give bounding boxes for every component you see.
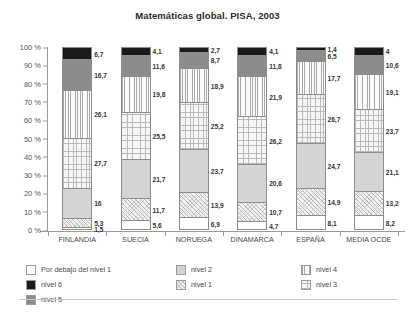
bar-segment[interactable]: 4,1 [237, 47, 267, 55]
bar-value-label: 8,1 [328, 219, 337, 226]
legend-label: nivel 2 [191, 265, 212, 274]
bar-segment[interactable]: 8,2 [354, 215, 384, 230]
bar-value-label: 11,6 [153, 62, 165, 69]
legend-label: nivel 6 [41, 280, 62, 289]
legend-item[interactable]: nivel 1 [176, 280, 301, 290]
bar-segment[interactable]: 1,4 [296, 47, 326, 50]
legend-item[interactable]: nivel 2 [176, 265, 301, 275]
bar-stack[interactable]: 1,55,31627,726,116,76,7 [62, 47, 92, 230]
bar-value-label: 8,7 [211, 57, 220, 64]
y-axis-tick-label: 60 % [2, 116, 48, 125]
bar-segment[interactable]: 18,9 [179, 68, 209, 103]
bar-stack[interactable]: 5,611,721,725,519,811,64,1 [121, 47, 151, 230]
bar-segment[interactable]: 19,8 [121, 76, 151, 112]
chart-title: Matemáticas global. PISA, 2003 [0, 10, 415, 21]
y-axis-tick-label: 20 % [2, 189, 48, 198]
legend-swatch-icon [301, 265, 311, 275]
bar-segment[interactable]: 1,5 [62, 227, 92, 230]
bar-segment[interactable]: 4 [354, 47, 384, 54]
bar-value-label: 19,1 [386, 88, 399, 95]
bar-segment[interactable]: 10,7 [237, 202, 267, 222]
bar-value-label: 25,2 [211, 123, 224, 130]
bar-value-label: 26,7 [328, 115, 341, 122]
bar-stack[interactable]: 8,213,221,123,719,110,64 [354, 47, 384, 230]
bar-segment[interactable]: 13,9 [179, 192, 209, 217]
bar-segment[interactable]: 10,6 [354, 55, 384, 74]
bar-segment[interactable]: 20,6 [237, 164, 267, 202]
legend-item[interactable]: Por debajo del nivel 1 [26, 265, 176, 275]
bar-value-label: 26,1 [94, 111, 107, 118]
x-axis-tick [223, 231, 224, 236]
bar-segment[interactable]: 4,1 [121, 47, 151, 55]
chart-legend: Por debajo del nivel 1nivel 2nivel 4nive… [26, 262, 396, 307]
legend-item[interactable]: nivel 3 [301, 280, 396, 290]
bar-segment[interactable]: 5,6 [121, 220, 151, 230]
bar-segment[interactable]: 14,9 [296, 188, 326, 215]
bar-segment[interactable]: 5,3 [62, 218, 92, 228]
bar-segment[interactable]: 6,7 [62, 47, 92, 59]
x-axis-tick [165, 231, 166, 236]
bar-segment[interactable]: 24,7 [296, 143, 326, 188]
bar-segment[interactable]: 13,2 [354, 191, 384, 215]
bar-segment[interactable]: 26,1 [62, 90, 92, 138]
y-axis-tick-label: 70 % [2, 97, 48, 106]
bar-value-label: 1,4 [328, 45, 337, 52]
bar-segment[interactable]: 8,7 [179, 52, 209, 68]
bar-value-label: 4 [386, 48, 390, 55]
bar-stack[interactable]: 8,114,924,726,717,76,51,4 [296, 47, 326, 230]
bar-segment[interactable]: 27,7 [62, 138, 92, 189]
bar-value-label: 4,7 [269, 222, 278, 229]
bar-segment[interactable]: 4,7 [237, 221, 267, 230]
bar-segment[interactable]: 17,7 [296, 61, 326, 93]
bar-value-label: 6,9 [211, 220, 220, 227]
legend-item[interactable]: nivel 6 [26, 280, 176, 290]
bar-value-label: 27,7 [94, 160, 107, 167]
bar-value-label: 4,1 [269, 48, 278, 55]
y-axis-tick-label: 30 % [2, 171, 48, 180]
bar-segment[interactable]: 16,7 [62, 59, 92, 90]
legend-item[interactable]: nivel 4 [301, 265, 396, 275]
bar-segment[interactable]: 6,9 [179, 217, 209, 230]
legend-swatch-icon [26, 280, 36, 290]
x-axis-tick [398, 231, 399, 236]
bar-value-label: 5,6 [153, 221, 162, 228]
bar-segment[interactable]: 23,7 [179, 149, 209, 192]
bar-segment[interactable]: 11,7 [121, 198, 151, 219]
x-axis-tick [48, 231, 49, 236]
bar-segment[interactable]: 6,5 [296, 50, 326, 62]
legend-label: Por debajo del nivel 1 [41, 265, 111, 274]
x-axis-tick [340, 231, 341, 236]
bar-segment[interactable]: 25,2 [179, 102, 209, 148]
bar-segment[interactable]: 21,7 [121, 159, 151, 199]
bar-value-label: 11,7 [153, 206, 165, 213]
bar-segment[interactable]: 11,6 [121, 55, 151, 76]
bar-segment[interactable]: 23,7 [354, 109, 384, 152]
bar-stack[interactable]: 4,710,720,626,221,911,84,1 [237, 47, 267, 230]
bar-segment[interactable]: 2,7 [179, 47, 209, 52]
bar-segment[interactable]: 25,5 [121, 112, 151, 159]
bar-segment[interactable]: 8,1 [296, 215, 326, 230]
bar-segment[interactable]: 26,7 [296, 94, 326, 143]
bar-value-label: 18,9 [211, 82, 224, 89]
bar-value-label: 25,5 [153, 132, 166, 139]
bar-stack[interactable]: 6,913,923,725,218,98,72,7 [179, 47, 209, 230]
legend-label: nivel 3 [316, 280, 337, 289]
bar-segment[interactable]: 26,2 [237, 116, 267, 164]
y-axis-tick-label: 50 % [2, 134, 48, 143]
x-axis-tick [106, 231, 107, 236]
x-axis-category-label: MEDIA OCDE [346, 235, 391, 244]
legend-label: nivel 4 [316, 265, 337, 274]
bar-segment[interactable]: 21,1 [354, 152, 384, 191]
bar-value-label: 26,2 [269, 137, 282, 144]
x-axis-category-label: DINAMARCA [231, 235, 274, 244]
bar-value-label: 24,7 [328, 162, 341, 169]
bar-segment[interactable]: 16 [62, 188, 92, 217]
x-axis-category-label: NORUEGA [176, 235, 212, 244]
bar-value-label: 6,5 [328, 53, 337, 60]
bar-value-label: 21,1 [386, 169, 399, 176]
legend-swatch-icon [301, 280, 311, 290]
y-axis-tick-label: 0 % [2, 226, 48, 235]
bar-segment[interactable]: 19,1 [354, 74, 384, 109]
bar-segment[interactable]: 21,9 [237, 76, 267, 116]
bar-segment[interactable]: 11,8 [237, 55, 267, 77]
